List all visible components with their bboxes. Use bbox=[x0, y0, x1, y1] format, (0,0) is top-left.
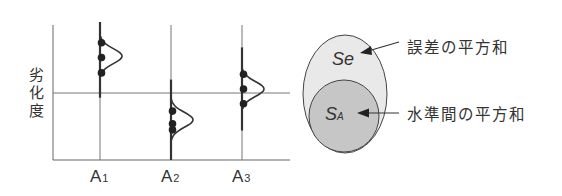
data-point bbox=[240, 70, 248, 78]
data-point bbox=[98, 39, 106, 47]
level-group-a1 bbox=[98, 22, 122, 160]
data-point bbox=[240, 85, 248, 93]
data-point bbox=[169, 107, 177, 115]
y-axis-label: 劣 化 度 bbox=[29, 66, 44, 119]
se-symbol: Se bbox=[332, 49, 354, 69]
x-tick-label-a2: A2 bbox=[161, 167, 179, 186]
data-point bbox=[98, 69, 106, 77]
level-groups bbox=[98, 22, 264, 160]
y-axis-label-char-3: 度 bbox=[29, 102, 44, 119]
x-tick-label-a1: A1 bbox=[90, 167, 108, 186]
figure: 劣 化 度 A1 A2 A3 Se SA 誤差の平方和 水準間の平方和 bbox=[0, 0, 562, 196]
data-point bbox=[98, 54, 106, 62]
y-axis-label-char-2: 化 bbox=[29, 84, 44, 101]
distribution-curve bbox=[172, 100, 193, 140]
y-axis-label-char-1: 劣 bbox=[29, 66, 44, 83]
x-tick-labels: A1 A2 A3 bbox=[90, 167, 250, 186]
data-point bbox=[240, 100, 248, 108]
error-sum-label: 誤差の平方和 bbox=[407, 39, 509, 57]
anova-level-chart: 劣 化 度 A1 A2 A3 bbox=[29, 22, 291, 186]
sum-of-squares-diagram: Se SA 誤差の平方和 水準間の平方和 bbox=[303, 35, 526, 153]
data-point bbox=[169, 126, 177, 134]
x-tick-label-a3: A3 bbox=[232, 167, 250, 186]
between-levels-sum-label: 水準間の平方和 bbox=[407, 106, 526, 124]
